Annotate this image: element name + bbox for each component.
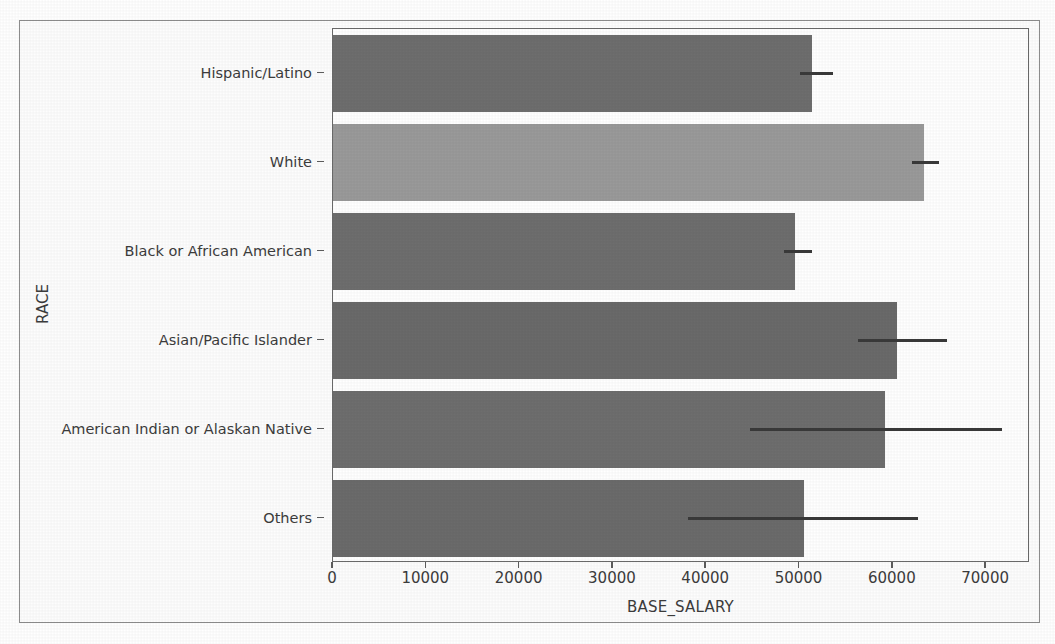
- x-tick-mark: [704, 562, 706, 568]
- y-tick-mark: [317, 517, 324, 519]
- error-bar: [912, 161, 939, 164]
- y-tick-label: Asian/Pacific Islander: [159, 332, 312, 347]
- bar: [333, 213, 795, 289]
- x-tick-mark: [984, 562, 986, 568]
- error-bar: [858, 339, 947, 342]
- x-tick-label: 30000: [588, 571, 636, 586]
- y-tick-label: Black or African American: [125, 243, 312, 258]
- y-tick-mark: [317, 250, 324, 252]
- x-tick-mark: [518, 562, 520, 568]
- error-bar: [750, 428, 1002, 431]
- x-axis-label: BASE_SALARY: [332, 598, 1029, 616]
- x-tick-label: 70000: [961, 571, 1009, 586]
- x-tick-label: 60000: [868, 571, 916, 586]
- bar: [333, 124, 924, 200]
- bar: [333, 302, 897, 378]
- x-tick-mark: [331, 562, 333, 568]
- y-tick-mark: [317, 161, 324, 163]
- y-tick-mark: [317, 428, 324, 430]
- y-tick-label: American Indian or Alaskan Native: [61, 421, 312, 436]
- error-bar: [688, 517, 918, 520]
- y-axis-tick-labels: Hispanic/LatinoWhiteBlack or African Ame…: [19, 28, 324, 562]
- bar-chart-figure: RACE Hispanic/LatinoWhiteBlack or Africa…: [19, 20, 1040, 623]
- x-tick-label: 50000: [775, 571, 823, 586]
- x-tick-mark: [798, 562, 800, 568]
- bars-layer: [333, 29, 1028, 561]
- error-bar: [784, 250, 812, 253]
- y-tick-label: Others: [263, 510, 312, 525]
- y-tick-mark: [317, 72, 324, 74]
- x-tick-label: 20000: [495, 571, 543, 586]
- x-tick-label: 0: [327, 571, 337, 586]
- x-tick-mark: [891, 562, 893, 568]
- error-bar: [800, 72, 833, 75]
- y-tick-label: Hispanic/Latino: [201, 65, 312, 80]
- x-tick-label: 10000: [401, 571, 449, 586]
- plot-area: [332, 28, 1029, 562]
- bar: [333, 35, 812, 111]
- x-axis-ticks: 010000200003000040000500006000070000: [332, 562, 1029, 570]
- figure-page: RACE Hispanic/LatinoWhiteBlack or Africa…: [0, 0, 1055, 644]
- x-tick-mark: [425, 562, 427, 568]
- x-tick-mark: [611, 562, 613, 568]
- y-tick-label: White: [270, 154, 312, 169]
- x-tick-label: 40000: [681, 571, 729, 586]
- y-tick-mark: [317, 339, 324, 341]
